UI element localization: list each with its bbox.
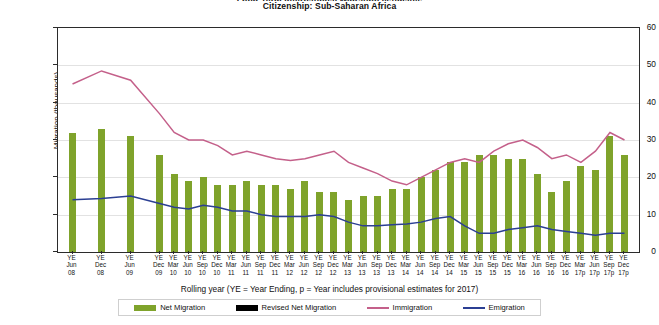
plot-area bbox=[57, 27, 640, 253]
chart-legend: Net MigrationRevised Net MigrationImmigr… bbox=[118, 299, 541, 316]
x-axis-label: Rolling year (YE = Year Ending, p = Year… bbox=[0, 284, 659, 294]
immigration-line bbox=[73, 71, 625, 185]
legend-label: Net Migration bbox=[160, 303, 205, 312]
legend-item[interactable]: Emigration bbox=[463, 303, 525, 312]
chart-title-block: Long-Term International Migration estima… bbox=[0, 0, 659, 11]
legend-item[interactable]: Net Migration bbox=[134, 303, 205, 312]
legend-label: Emigration bbox=[489, 303, 525, 312]
x-tick-label: YEJun08 bbox=[59, 254, 85, 276]
x-axis-ticks: YEJun08YEDec08YEJun09YEDec09YEMar10YEJun… bbox=[57, 254, 640, 284]
x-tick-label: YEJun09 bbox=[117, 254, 143, 276]
line-swatch-pink-icon bbox=[367, 307, 389, 309]
line-series-group bbox=[58, 28, 639, 252]
bar-swatch-green-icon bbox=[134, 305, 156, 311]
x-tick-label: YEDec08 bbox=[88, 254, 114, 276]
emigration-line bbox=[73, 196, 625, 235]
x-tick-label: YEDec17p bbox=[610, 254, 636, 276]
legend-item[interactable]: Revised Net Migration bbox=[236, 303, 337, 312]
bar-swatch-black-icon bbox=[236, 305, 258, 311]
chart-root: Long-Term International Migration estima… bbox=[0, 0, 659, 325]
legend-label: Immigration bbox=[393, 303, 433, 312]
legend-item[interactable]: Immigration bbox=[367, 303, 433, 312]
legend-label: Revised Net Migration bbox=[262, 303, 337, 312]
line-swatch-blue-icon bbox=[463, 307, 485, 309]
chart-title-line2: Citizenship: Sub-Saharan Africa bbox=[0, 1, 659, 11]
